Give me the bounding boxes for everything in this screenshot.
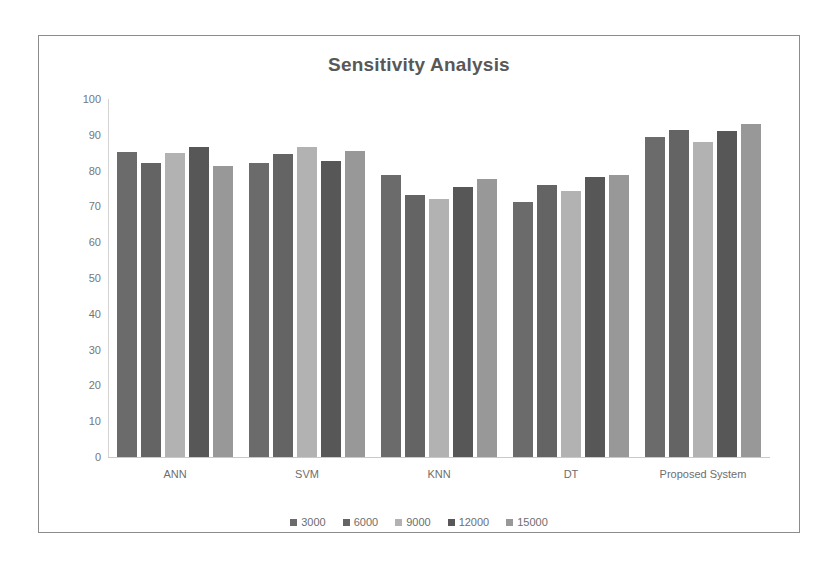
- x-axis-category-label: SVM: [295, 468, 319, 480]
- bar-groups: ANNSVMKNNDTProposed System: [109, 99, 769, 457]
- legend-label: 3000: [301, 516, 325, 528]
- bar[interactable]: [405, 195, 425, 457]
- y-axis-tick: 70: [89, 200, 101, 212]
- y-axis-tick: 40: [89, 308, 101, 320]
- y-axis-tick: 30: [89, 344, 101, 356]
- bar[interactable]: [741, 124, 761, 457]
- bar-group: Proposed System: [645, 99, 761, 457]
- bar[interactable]: [321, 161, 341, 457]
- y-axis-tick: 60: [89, 236, 101, 248]
- chart-legend: 3000600090001200015000: [39, 516, 799, 528]
- legend-item[interactable]: 15000: [506, 516, 548, 528]
- bar[interactable]: [609, 175, 629, 457]
- chart-title: Sensitivity Analysis: [39, 54, 799, 76]
- bar[interactable]: [453, 187, 473, 457]
- bar[interactable]: [381, 175, 401, 457]
- y-axis-tick: 80: [89, 165, 101, 177]
- legend-item[interactable]: 9000: [395, 516, 430, 528]
- bar[interactable]: [645, 137, 665, 457]
- y-axis-tick: 100: [83, 93, 101, 105]
- bar[interactable]: [273, 154, 293, 457]
- bar[interactable]: [429, 199, 449, 457]
- legend-label: 15000: [517, 516, 548, 528]
- bar[interactable]: [165, 153, 185, 457]
- legend-label: 6000: [354, 516, 378, 528]
- bar[interactable]: [249, 163, 269, 457]
- legend-swatch-icon: [448, 519, 455, 526]
- y-axis-tick: 20: [89, 379, 101, 391]
- bar[interactable]: [477, 179, 497, 457]
- bar[interactable]: [585, 177, 605, 457]
- bar[interactable]: [717, 131, 737, 457]
- y-axis-tick: 0: [95, 451, 101, 463]
- bar[interactable]: [189, 147, 209, 457]
- bar[interactable]: [513, 202, 533, 457]
- legend-item[interactable]: 3000: [290, 516, 325, 528]
- legend-swatch-icon: [506, 519, 513, 526]
- y-axis-tick: 10: [89, 415, 101, 427]
- bar[interactable]: [561, 191, 581, 457]
- plot-area: 1009080706050403020100 ANNSVMKNNDTPropos…: [109, 99, 769, 457]
- bar[interactable]: [537, 185, 557, 457]
- x-axis-category-label: ANN: [163, 468, 186, 480]
- bar[interactable]: [669, 130, 689, 457]
- chart-page: Sensitivity Analysis 1009080706050403020…: [0, 0, 838, 562]
- x-axis-category-label: KNN: [427, 468, 450, 480]
- bar[interactable]: [141, 163, 161, 457]
- bar[interactable]: [117, 152, 137, 457]
- x-axis-category-label: DT: [564, 468, 579, 480]
- legend-swatch-icon: [343, 519, 350, 526]
- legend-swatch-icon: [290, 519, 297, 526]
- chart-frame: Sensitivity Analysis 1009080706050403020…: [38, 35, 800, 533]
- bar[interactable]: [345, 151, 365, 457]
- bar[interactable]: [297, 147, 317, 457]
- bar-group: ANN: [117, 99, 233, 457]
- legend-swatch-icon: [395, 519, 402, 526]
- bar[interactable]: [213, 166, 233, 457]
- y-axis-tick: 90: [89, 129, 101, 141]
- y-axis-tick: 50: [89, 272, 101, 284]
- legend-item[interactable]: 6000: [343, 516, 378, 528]
- x-axis-category-label: Proposed System: [660, 468, 747, 480]
- bar-group: SVM: [249, 99, 365, 457]
- x-axis-line: [108, 457, 770, 458]
- bar-group: KNN: [381, 99, 497, 457]
- legend-label: 12000: [459, 516, 490, 528]
- legend-label: 9000: [406, 516, 430, 528]
- bar[interactable]: [693, 142, 713, 457]
- bar-group: DT: [513, 99, 629, 457]
- legend-item[interactable]: 12000: [448, 516, 490, 528]
